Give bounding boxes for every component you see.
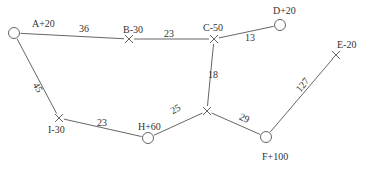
edge-a-b — [20, 33, 124, 38]
edge-label-c-d: 13 — [245, 32, 255, 43]
node-c-label: C-50 — [203, 22, 223, 33]
node-d-circle-icon — [275, 20, 286, 31]
node-a-label: A+20 — [32, 18, 55, 29]
node-f-circle-icon — [261, 132, 272, 143]
node-j-cross-icon — [203, 107, 211, 115]
node-h-circle-icon — [143, 133, 154, 144]
edge-labels-layer: 3623131812729252345 — [31, 23, 312, 128]
edge-label-a-b: 36 — [79, 23, 89, 34]
node-e-label: E-20 — [337, 39, 356, 50]
node-c-cross-icon — [210, 35, 218, 43]
edge-a-i — [17, 39, 57, 114]
edge-e-f — [270, 59, 333, 132]
edge-label-a-i: 45 — [31, 80, 46, 94]
edge-label-b-c: 23 — [164, 28, 174, 39]
node-i-label: I-30 — [48, 124, 65, 135]
edge-h-j — [154, 113, 203, 135]
edges-layer — [17, 26, 333, 136]
edge-label-c-j: 18 — [208, 69, 218, 80]
network-diagram: 3623131812729252345 A+20B-30C-50D+20E-20… — [0, 0, 368, 171]
edge-label-h-j: 25 — [168, 102, 182, 117]
node-a-circle-icon — [9, 28, 20, 39]
edge-label-j-f: 29 — [238, 111, 252, 125]
node-i-cross-icon — [55, 114, 63, 122]
edge-label-e-f: 127 — [293, 75, 311, 94]
node-h-label: H+60 — [138, 121, 161, 132]
node-f-label: F+100 — [262, 151, 288, 162]
edge-label-i-h: 23 — [97, 117, 107, 128]
node-b-label: B-30 — [123, 24, 143, 35]
node-b-cross-icon — [125, 35, 133, 43]
edge-j-f — [212, 113, 260, 134]
node-d-label: D+20 — [273, 5, 296, 16]
node-e-cross-icon — [332, 51, 340, 59]
